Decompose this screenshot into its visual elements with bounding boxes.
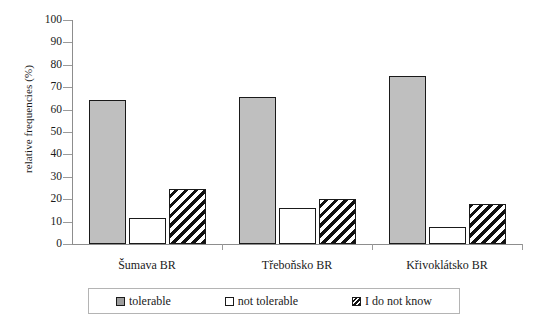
bar-tolerable xyxy=(389,76,426,244)
bar-tolerable xyxy=(239,97,276,244)
bar-tolerable xyxy=(89,100,126,244)
bar-not-tolerable xyxy=(279,208,316,244)
y-axis-tick-label: 30 xyxy=(24,171,62,183)
y-axis-tick xyxy=(63,65,72,66)
y-axis-tick xyxy=(63,110,72,111)
legend-swatch-not-tolerable-icon xyxy=(225,297,234,306)
legend-swatch-dont-know-icon xyxy=(352,297,361,306)
legend-swatch-tolerable-icon xyxy=(116,297,125,306)
bar-not-tolerable xyxy=(429,227,466,244)
legend-entry: I do not know xyxy=(352,294,432,309)
legend-label: tolerable xyxy=(129,294,171,309)
y-axis-tick-label: 80 xyxy=(24,59,62,71)
x-axis-line xyxy=(72,244,522,245)
x-axis-category-label: Křivoklátsko BR xyxy=(372,258,522,273)
legend-label: I do not know xyxy=(365,294,432,309)
bar-dont-know xyxy=(319,199,356,244)
bar-not-tolerable xyxy=(129,218,166,244)
y-axis-tick-label: 100 xyxy=(24,14,62,26)
y-axis-tick xyxy=(63,244,72,245)
y-axis-tick-label: 50 xyxy=(24,126,62,138)
y-axis-tick-label: 0 xyxy=(24,238,62,250)
legend-entry: not tolerable xyxy=(225,294,298,309)
y-axis-tick xyxy=(63,199,72,200)
x-axis-category-label: Třeboňsko BR xyxy=(222,258,372,273)
y-axis-tick xyxy=(63,87,72,88)
bar-dont-know xyxy=(169,189,206,244)
y-axis-tick xyxy=(63,20,72,21)
y-axis-tick-label: 90 xyxy=(24,36,62,48)
y-axis-tick xyxy=(63,42,72,43)
legend-entry: tolerable xyxy=(116,294,171,309)
x-axis-tick xyxy=(222,244,223,250)
y-axis-tick-label: 60 xyxy=(24,104,62,116)
y-axis-tick xyxy=(63,132,72,133)
y-axis-tick-label: 10 xyxy=(24,216,62,228)
y-axis-tick-label: 20 xyxy=(24,193,62,205)
y-axis-tick xyxy=(63,177,72,178)
y-axis-tick xyxy=(63,222,72,223)
bar-chart: relative frequencies (%) 010203040506070… xyxy=(0,0,544,325)
legend-label: not tolerable xyxy=(238,294,298,309)
x-axis-tick xyxy=(372,244,373,250)
chart-legend: tolerablenot tolerableI do not know xyxy=(88,288,460,314)
y-axis-tick xyxy=(63,154,72,155)
x-axis-tick xyxy=(522,244,523,250)
plot-area: 0102030405060708090100 xyxy=(72,20,522,244)
x-axis-category-label: Šumava BR xyxy=(72,258,222,273)
y-axis-line xyxy=(72,20,73,244)
y-axis-tick-label: 40 xyxy=(24,148,62,160)
bar-dont-know xyxy=(469,204,506,244)
y-axis-tick-label: 70 xyxy=(24,81,62,93)
